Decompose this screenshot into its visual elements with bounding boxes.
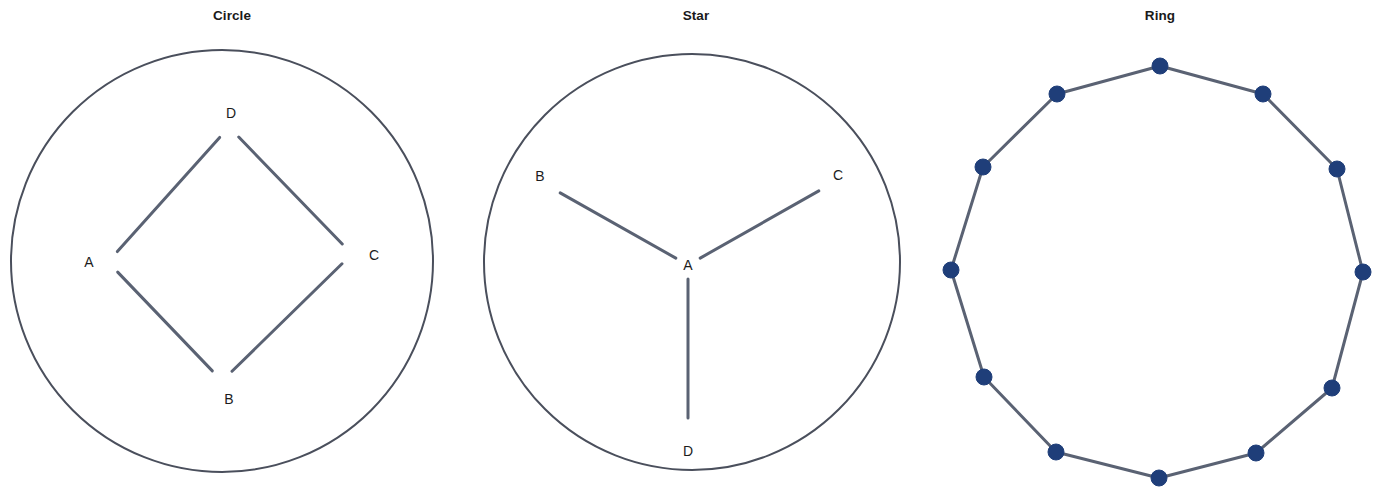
edge-n3-n4 [1337,169,1363,272]
edge-B-C [232,264,342,371]
edge-n4-n5 [1332,272,1363,388]
node-label-D: D [683,443,693,459]
ring-topology-svg [928,0,1392,500]
edge-D-A [117,137,219,251]
node-marker[interactable] [1048,444,1064,460]
node-marker[interactable] [1355,264,1371,280]
edge-n9-n10 [951,270,984,377]
node-marker[interactable] [1248,445,1264,461]
node-marker[interactable] [976,369,992,385]
edge-A-B [118,272,213,371]
node-label-B: B [535,168,544,184]
node-label-A: A [84,254,94,270]
network-topology-figure: Circle ABCD Star ABCD Ring [0,0,1392,500]
edge-n11-n12 [983,94,1057,167]
panel-ring: Ring [928,0,1392,500]
edge-n8-n9 [984,377,1056,452]
node-marker[interactable] [1255,86,1271,102]
node-marker[interactable] [1152,58,1168,74]
edge-C-D [239,137,343,244]
edge-n12-n1 [1057,66,1160,94]
star-topology-svg: ABCD [464,0,928,500]
node-marker[interactable] [1329,161,1345,177]
edge-A-B [560,193,676,258]
node-marker[interactable] [975,159,991,175]
node-marker[interactable] [1324,380,1340,396]
edge-n5-n6 [1256,388,1332,453]
circle-topology-svg: ABCD [0,0,464,500]
edge-n1-n2 [1160,66,1263,94]
node-marker[interactable] [943,262,959,278]
node-label-B: B [224,391,233,407]
node-label-C: C [369,247,379,263]
panel-circle: Circle ABCD [0,0,464,500]
panel-star: Star ABCD [464,0,928,500]
edge-A-C [700,191,819,258]
edge-n6-n7 [1159,453,1256,478]
node-label-D: D [226,105,236,121]
edge-n10-n11 [951,167,983,270]
node-label-C: C [833,167,843,183]
edge-n2-n3 [1263,94,1337,169]
node-marker[interactable] [1151,470,1167,486]
edge-n7-n8 [1056,452,1159,478]
node-label-A: A [683,257,693,273]
node-marker[interactable] [1049,86,1065,102]
